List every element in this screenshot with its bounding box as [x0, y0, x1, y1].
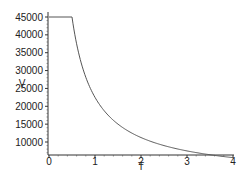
y-tick-label: 10000 [15, 137, 43, 148]
data-line [49, 17, 233, 158]
x-tick-label: 0 [46, 156, 52, 167]
y-axis-label: V [19, 78, 26, 89]
y-tick-label: 40000 [15, 29, 43, 40]
y-tick-label: 30000 [15, 65, 43, 76]
y-tick-label: 15000 [15, 119, 43, 130]
y-tick-label: 35000 [15, 47, 43, 58]
x-tick-label: 1 [92, 156, 98, 167]
x-axis-label: T [138, 161, 144, 172]
y-tick-label: 20000 [15, 101, 43, 112]
chart: 1000015000200002500030000350004000045000… [0, 0, 247, 174]
y-tick-label: 45000 [15, 12, 43, 23]
x-tick-label: 3 [184, 156, 190, 167]
axes [48, 12, 234, 155]
